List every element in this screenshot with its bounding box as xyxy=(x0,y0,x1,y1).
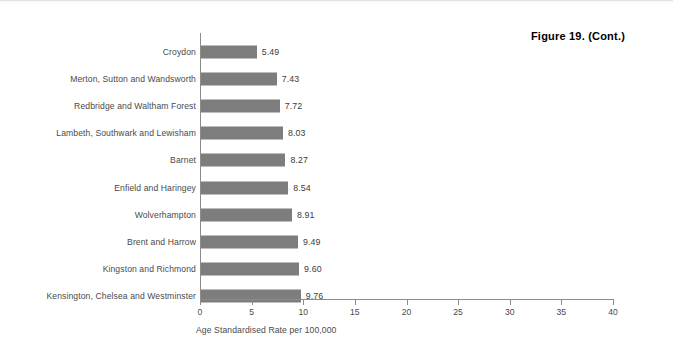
bar-value-label: 7.43 xyxy=(282,74,300,84)
bar-value-label: 8.27 xyxy=(290,155,308,165)
category-label: Redbridge and Waltham Forest xyxy=(74,101,196,111)
x-axis-tick-label: 20 xyxy=(402,307,412,317)
bar-row: Brent and Harrow9.49 xyxy=(0,228,673,255)
x-axis-tick xyxy=(252,299,253,305)
bar-chart: Croydon5.49Merton, Sutton and Wandsworth… xyxy=(0,0,673,351)
bar-row: Barnet8.27 xyxy=(0,147,673,174)
x-axis-tick-label: 5 xyxy=(249,307,254,317)
bar-value-label: 9.49 xyxy=(303,237,321,247)
figure-page: Figure 19. (Cont.) Croydon5.49Merton, Su… xyxy=(0,0,673,351)
x-axis-tick-label: 35 xyxy=(557,307,567,317)
x-axis-tick-label: 40 xyxy=(608,307,618,317)
x-axis-tick-label: 15 xyxy=(350,307,360,317)
x-axis-tick xyxy=(407,299,408,305)
bar-row: Lambeth, Southwark and Lewisham8.03 xyxy=(0,120,673,147)
x-axis-tick-label: 10 xyxy=(298,307,308,317)
x-axis-tick xyxy=(613,299,614,305)
bar-value-label: 5.49 xyxy=(262,47,280,57)
bar-value-label: 8.03 xyxy=(288,128,306,138)
x-axis-tick-label: 30 xyxy=(505,307,515,317)
x-axis-tick-label: 25 xyxy=(453,307,463,317)
bar-rows-container: Croydon5.49Merton, Sutton and Wandsworth… xyxy=(0,38,673,310)
bar-value-label: 8.54 xyxy=(293,183,311,193)
bar-row: Merton, Sutton and Wandsworth7.43 xyxy=(0,65,673,92)
bar-value-label: 7.72 xyxy=(285,101,303,111)
bar-row: Kensington, Chelsea and Westminster9.76 xyxy=(0,283,673,310)
x-axis-tick xyxy=(510,299,511,305)
bar xyxy=(200,45,257,58)
x-axis-tick xyxy=(303,299,304,305)
bar-row: Enfield and Haringey8.54 xyxy=(0,174,673,201)
category-label: Kensington, Chelsea and Westminster xyxy=(46,291,196,301)
bar xyxy=(200,263,299,276)
bar xyxy=(200,208,292,221)
x-axis-tick xyxy=(200,299,201,305)
y-axis-line xyxy=(200,33,201,300)
x-axis-tick xyxy=(355,299,356,305)
category-label: Barnet xyxy=(170,155,196,165)
category-label: Croydon xyxy=(163,47,196,57)
category-label: Kingston and Richmond xyxy=(103,264,196,274)
bar xyxy=(200,290,301,303)
bar xyxy=(200,181,288,194)
bar-value-label: 9.60 xyxy=(304,264,322,274)
category-label: Enfield and Haringey xyxy=(114,183,196,193)
category-label: Merton, Sutton and Wandsworth xyxy=(70,74,196,84)
x-axis-tick xyxy=(561,299,562,305)
bar xyxy=(200,72,277,85)
x-axis-tick-label: 0 xyxy=(198,307,203,317)
bar-row: Kingston and Richmond9.60 xyxy=(0,256,673,283)
bar-row: Redbridge and Waltham Forest7.72 xyxy=(0,92,673,119)
bar xyxy=(200,127,283,140)
bar xyxy=(200,99,280,112)
bar-row: Croydon5.49 xyxy=(0,38,673,65)
bar-row: Wolverhampton8.91 xyxy=(0,201,673,228)
x-axis-tick xyxy=(458,299,459,305)
category-label: Brent and Harrow xyxy=(127,237,196,247)
bar xyxy=(200,235,298,248)
category-label: Lambeth, Southwark and Lewisham xyxy=(56,128,196,138)
bar xyxy=(200,154,285,167)
x-axis-title: Age Standardised Rate per 100,000 xyxy=(196,325,336,335)
category-label: Wolverhampton xyxy=(135,210,196,220)
bar-value-label: 8.91 xyxy=(297,210,315,220)
